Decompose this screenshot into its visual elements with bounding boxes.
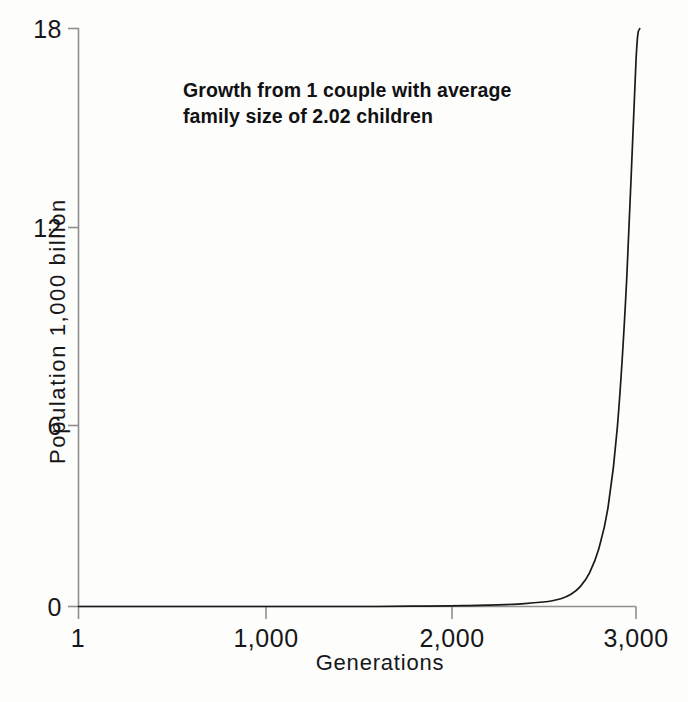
x-axis-title: Generations	[280, 650, 480, 676]
y-axis-tick-label-0: 0	[18, 593, 62, 622]
chart-title-line-1: Growth from 1 couple with average	[183, 78, 513, 104]
x-axis-tick-label-1000: 1,000	[211, 624, 321, 653]
chart-figure: 18 12 6 0 1 1,000 2,000 3,000 Growth fro…	[0, 0, 688, 702]
chart-title: Growth from 1 couple with average family…	[183, 78, 513, 130]
y-axis-title: Population 1,000 billion	[45, 181, 71, 481]
x-axis-tick-label-2000: 2,000	[397, 624, 507, 653]
chart-title-line-2: family size of 2.02 children	[183, 104, 513, 130]
x-axis-tick-label-1: 1	[48, 624, 108, 653]
y-axis-tick-label-18: 18	[18, 15, 62, 44]
x-axis-tick-label-3000: 3,000	[581, 624, 688, 653]
